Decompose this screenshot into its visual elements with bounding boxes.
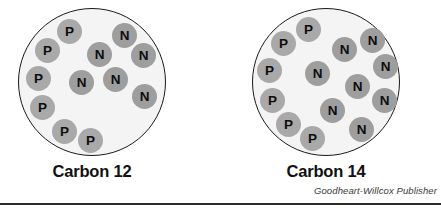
neutron-particle: N [305, 61, 330, 86]
neutron-particle: N [320, 98, 345, 123]
neutron-particle: N [372, 88, 397, 113]
neutron-particle: N [360, 28, 385, 53]
proton-particle: P [300, 126, 325, 151]
neutron-particle: N [349, 117, 374, 142]
nucleus-label-carbon-12: Carbon 12 [12, 162, 172, 181]
neutron-particle: N [345, 74, 370, 99]
neutron-particle: N [332, 37, 357, 62]
neutron-particle: N [87, 42, 112, 67]
proton-particle: P [78, 128, 103, 153]
bottom-divider [0, 203, 441, 205]
nucleus-diagram-carbon-12: PPPPPPNNNNNN [14, 4, 174, 160]
neutron-particle: N [103, 67, 128, 92]
neutron-particle: N [373, 54, 398, 79]
neutron-particle: N [132, 84, 157, 109]
proton-particle: P [30, 95, 55, 120]
nucleus-diagram-carbon-14: PPPPPPNNNNNNNN [248, 4, 408, 160]
proton-particle: P [35, 38, 60, 63]
proton-particle: P [276, 112, 301, 137]
proton-particle: P [52, 119, 77, 144]
nucleus-label-carbon-14: Carbon 14 [246, 162, 406, 181]
proton-particle: P [260, 88, 285, 113]
proton-particle: P [26, 66, 51, 91]
proton-particle: P [271, 31, 296, 56]
publisher-credit: Goodheart-Willcox Publisher [314, 185, 437, 196]
proton-particle: P [57, 19, 82, 44]
neutron-particle: N [131, 43, 156, 68]
neutron-particle: N [112, 23, 137, 48]
neutron-particle: N [69, 70, 94, 95]
proton-particle: P [257, 58, 282, 83]
proton-particle: P [296, 17, 321, 42]
carbon-isotope-figure: PPPPPPNNNNNN PPPPPPNNNNNNNN Carbon 12 Ca… [0, 0, 441, 209]
